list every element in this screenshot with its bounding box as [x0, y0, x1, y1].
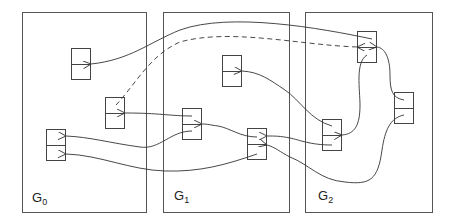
node-g1a — [222, 55, 242, 87]
node-g2c — [322, 119, 342, 151]
node-g1c — [247, 128, 267, 160]
node-g0a — [71, 48, 91, 80]
panel-label-g2: G2 — [318, 188, 333, 205]
diagram-canvas: G0 G1 G2 — [0, 0, 455, 223]
node-g1b — [182, 108, 202, 140]
node-g0b — [105, 97, 125, 129]
node-g2a — [357, 31, 377, 63]
node-g0c — [46, 129, 66, 161]
panel-label-g1: G1 — [174, 188, 189, 205]
panel-g0: G0 — [22, 12, 147, 213]
node-g2b — [394, 92, 414, 124]
panel-label-g0: G0 — [32, 190, 47, 207]
